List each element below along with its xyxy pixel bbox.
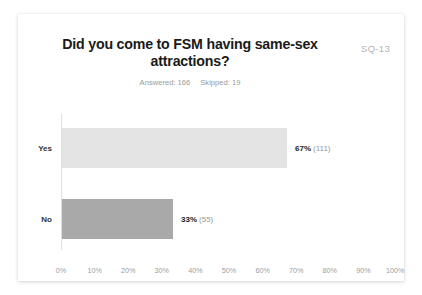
bar-no[interactable] — [62, 199, 173, 239]
x-tick-40: 40% — [188, 266, 202, 275]
category-label-yes: Yes — [38, 144, 52, 153]
x-tick-30: 30% — [155, 266, 169, 275]
answered-count-label: Answered: 166 — [140, 78, 191, 87]
x-tick-90: 90% — [356, 266, 370, 275]
value-count-yes: (111) — [313, 144, 331, 153]
category-label-no: No — [41, 215, 52, 224]
bar-yes[interactable] — [62, 128, 287, 168]
response-summary: Answered: 166Skipped: 19 — [54, 78, 326, 87]
chart-title: Did you come to FSM having same-sex attr… — [54, 36, 326, 70]
value-percent-yes: 67% — [295, 144, 311, 153]
x-tick-70: 70% — [289, 266, 303, 275]
value-percent-no: 33% — [181, 215, 197, 224]
x-tick-80: 80% — [323, 266, 337, 275]
question-code-label: SQ-13 — [361, 43, 390, 54]
x-axis-tick-labels: 0% 10% 20% 30% 40% 50% 60% 70% 80% 90% 1… — [61, 266, 397, 278]
x-tick-0: 0% — [56, 266, 66, 275]
x-tick-50: 50% — [222, 266, 236, 275]
x-tick-20: 20% — [121, 266, 135, 275]
skipped-count-label: Skipped: 19 — [200, 78, 240, 87]
chart-plot-area: Yes 67%(111) No 33%(55) — [61, 114, 397, 250]
value-label-no: 33%(55) — [181, 215, 213, 224]
value-count-no: (55) — [199, 215, 213, 224]
x-tick-10: 10% — [87, 266, 101, 275]
survey-result-card: SQ-13 Did you come to FSM having same-se… — [18, 14, 404, 281]
value-label-yes: 67%(111) — [295, 144, 331, 153]
x-tick-100: 100% — [386, 266, 404, 275]
x-tick-60: 60% — [255, 266, 269, 275]
